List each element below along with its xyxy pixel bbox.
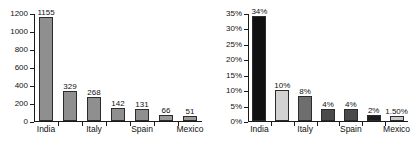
y-tick (30, 68, 34, 69)
chart-absolute-counts: 020040060080010001200 115532926814213166… (0, 0, 208, 146)
bar-value-label: 4% (345, 101, 357, 109)
y-tick-label: 0% (230, 118, 242, 126)
y-tick-label: 20% (226, 56, 242, 64)
y-tick-label: 5% (230, 103, 242, 111)
bar-value-label: 66 (162, 107, 171, 115)
y-tick-label: 30% (226, 25, 242, 33)
bar-value-label: 34% (251, 8, 267, 16)
x-axis-category-label: Spain (340, 125, 362, 134)
x-tick (317, 122, 318, 126)
bar-value-label: 1155 (37, 9, 54, 17)
chart-percentages: 0%5%10%15%20%25%30%35% 34%10%8%4%4%2%1.5… (208, 0, 415, 146)
x-axis-category-label: Italy (297, 125, 313, 134)
bar-value-label: 1.50% (385, 108, 408, 116)
y-tick (244, 122, 248, 123)
y-tick (30, 104, 34, 105)
bar: 268 (87, 97, 101, 121)
y-tick (244, 91, 248, 92)
bar-value-label: 268 (87, 89, 100, 97)
bar: 34% (252, 16, 266, 121)
dual-bar-chart-figure: 020040060080010001200 115532926814213166… (0, 0, 415, 146)
bar: 1.50% (390, 116, 404, 121)
bar-value-label: 329 (63, 83, 76, 91)
x-axis-category-label: Mexico (177, 125, 204, 134)
y-tick (244, 29, 248, 30)
plot-area-right: 0%5%10%15%20%25%30%35% 34%10%8%4%4%2%1.5… (248, 14, 408, 122)
y-tick-label: 25% (226, 41, 242, 49)
bar: 8% (298, 96, 312, 121)
y-tick (244, 76, 248, 77)
bar: 4% (321, 109, 335, 121)
bar: 131 (135, 109, 149, 121)
x-axis-category-label: India (250, 125, 268, 134)
x-tick (362, 122, 363, 126)
x-tick (154, 122, 155, 126)
y-tick-label: 15% (226, 72, 242, 80)
bar: 329 (63, 91, 77, 121)
bar-value-label: 4% (322, 101, 334, 109)
y-tick (30, 50, 34, 51)
bar-value-label: 51 (186, 108, 195, 116)
y-axis-line-right (248, 14, 249, 122)
y-tick (30, 122, 34, 123)
y-tick-label: 35% (226, 10, 242, 18)
x-tick (58, 122, 59, 126)
x-axis-category-label: Mexico (383, 125, 410, 134)
bar: 10% (275, 90, 289, 121)
bar: 4% (344, 109, 358, 121)
x-tick (82, 122, 83, 126)
bar-value-label: 142 (111, 100, 124, 108)
y-tick (30, 32, 34, 33)
bar-value-label: 131 (135, 101, 148, 109)
bar-value-label: 10% (274, 82, 290, 90)
x-tick (271, 122, 272, 126)
y-tick-label: 1000 (10, 28, 28, 36)
y-tick-label: 800 (15, 46, 28, 54)
bar-value-label: 2% (368, 107, 380, 115)
y-tick-label: 0 (24, 118, 28, 126)
x-axis-category-label: Spain (131, 125, 153, 134)
x-axis-line-right (248, 121, 408, 122)
y-tick-label: 10% (226, 87, 242, 95)
x-axis-category-label: India (37, 125, 55, 134)
y-tick (244, 60, 248, 61)
y-tick-label: 1200 (10, 10, 28, 18)
bar: 142 (111, 108, 125, 121)
y-tick (244, 45, 248, 46)
bar-value-label: 8% (299, 88, 311, 96)
plot-area-left: 020040060080010001200 115532926814213166… (34, 14, 202, 122)
x-tick (294, 122, 295, 126)
bar: 2% (367, 115, 381, 121)
y-axis-line-left (34, 14, 35, 122)
bar: 1155 (39, 17, 53, 121)
y-tick (244, 14, 248, 15)
y-tick-label: 200 (15, 100, 28, 108)
y-tick (30, 14, 34, 15)
y-tick-label: 600 (15, 64, 28, 72)
x-axis-line-left (34, 121, 202, 122)
bar: 66 (159, 115, 173, 121)
y-tick-label: 400 (15, 82, 28, 90)
y-tick (30, 86, 34, 87)
x-tick (106, 122, 107, 126)
y-tick (244, 107, 248, 108)
bar: 51 (183, 116, 197, 121)
x-axis-category-label: Italy (86, 125, 102, 134)
